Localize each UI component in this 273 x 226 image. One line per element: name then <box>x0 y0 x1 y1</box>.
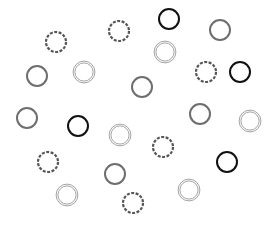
circle-ring <box>109 21 129 41</box>
circle-ring <box>38 152 58 172</box>
circle-ring <box>241 112 259 130</box>
circle-double-light <box>154 41 176 63</box>
circle-solid-gray <box>17 108 37 128</box>
circle-solid-black <box>230 62 250 82</box>
circle-ring <box>196 62 216 82</box>
circle-ring <box>68 116 88 136</box>
circle-dashed <box>38 152 58 172</box>
circle-ring <box>75 63 93 81</box>
circle-ring <box>153 137 173 157</box>
circle-dashed <box>153 137 173 157</box>
circle-ring <box>178 179 200 201</box>
circle-ring <box>180 181 198 199</box>
circle-ring <box>156 43 174 61</box>
circle-ring <box>109 124 131 146</box>
circle-solid-gray <box>210 20 230 40</box>
circle-solid-gray <box>105 164 125 184</box>
circle-ring <box>217 152 237 172</box>
circle-ring <box>27 66 47 86</box>
circle-ring <box>105 164 125 184</box>
circle-ring <box>210 20 230 40</box>
circle-dashed <box>109 21 129 41</box>
circle-ring <box>58 186 76 204</box>
circle-double-light <box>109 124 131 146</box>
circle-ring <box>111 126 129 144</box>
circle-ring <box>73 61 95 83</box>
circle-dashed <box>46 32 66 52</box>
circle-double-light <box>73 61 95 83</box>
circle-solid-black <box>217 152 237 172</box>
circle-ring <box>159 9 179 29</box>
circle-solid-black <box>159 9 179 29</box>
circle-double-light <box>178 179 200 201</box>
circle-ring <box>154 41 176 63</box>
circle-double-light <box>56 184 78 206</box>
circle-dashed <box>196 62 216 82</box>
circle-solid-gray <box>27 66 47 86</box>
circle-double-light <box>239 110 261 132</box>
circle-ring <box>190 104 210 124</box>
circle-ring <box>132 77 152 97</box>
circle-solid-black <box>68 116 88 136</box>
circle-ring <box>123 193 143 213</box>
circle-dashed <box>123 193 143 213</box>
circle-ring <box>17 108 37 128</box>
circle-ring <box>239 110 261 132</box>
circle-ring <box>56 184 78 206</box>
circle-ring <box>46 32 66 52</box>
circles-canvas <box>0 0 273 226</box>
circle-solid-gray <box>132 77 152 97</box>
circle-ring <box>230 62 250 82</box>
circle-solid-gray <box>190 104 210 124</box>
